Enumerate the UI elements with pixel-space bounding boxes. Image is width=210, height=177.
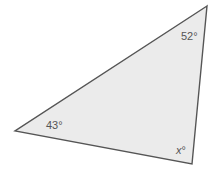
triangle (15, 6, 207, 164)
angle-label-unknown: x° (175, 144, 186, 156)
degree-symbol: ° (182, 144, 186, 156)
triangle-diagram: 52° 43° x° (0, 0, 210, 177)
angle-label-left: 43° (46, 119, 63, 131)
angle-label-top: 52° (181, 30, 198, 42)
